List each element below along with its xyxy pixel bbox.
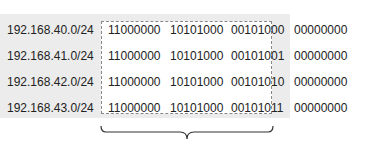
octet-4: 00000000: [294, 69, 347, 95]
octet-4: 00000000: [294, 17, 347, 43]
octet-4: 00000000: [294, 95, 347, 121]
octet-2: 10101000: [170, 95, 223, 121]
octet-1: 11000000: [108, 43, 161, 69]
curly-brace-icon: [100, 124, 274, 146]
octet-4: 00000000: [294, 43, 347, 69]
network-address: 192.168.43.0/24: [7, 95, 94, 121]
octet-3: 00101011: [231, 95, 284, 121]
octet-1: 11000000: [108, 69, 161, 95]
octet-2: 10101000: [170, 17, 223, 43]
network-address: 192.168.40.0/24: [7, 17, 94, 43]
network-address: 192.168.41.0/24: [7, 43, 94, 69]
octet-2: 10101000: [170, 43, 223, 69]
octet-3: 00101010: [231, 69, 284, 95]
octet-3: 00101001: [231, 43, 284, 69]
octet-2: 10101000: [170, 69, 223, 95]
octet-1: 11000000: [108, 17, 161, 43]
octet-1: 11000000: [108, 95, 161, 121]
octet-3: 00101000: [231, 17, 284, 43]
network-address: 192.168.42.0/24: [7, 69, 94, 95]
